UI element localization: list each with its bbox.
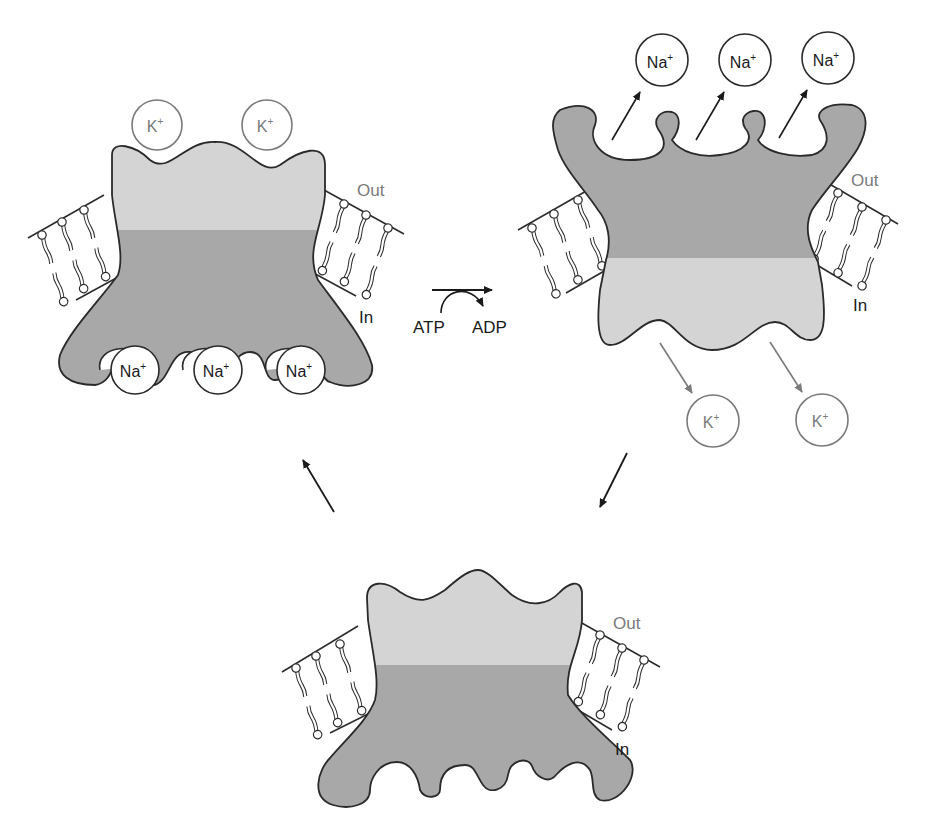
state-1-pump-group: Na+ Na+ Na+ K+ K+ Out In (28, 100, 404, 400)
out-label-state-2: Out (851, 171, 879, 190)
atp-hydrolysis-arrow (441, 291, 483, 313)
membrane-left-state-2 (518, 190, 607, 299)
adp-label: ADP (472, 318, 507, 337)
membrane-right-state-2 (809, 182, 898, 291)
state-3-pump-group: Out In (282, 560, 660, 825)
k-ion-released-1: K+ (660, 343, 739, 447)
sodium-potassium-pump-diagram: Na+ Na+ Na+ K+ K+ Out In ATP ADP (0, 0, 926, 836)
k-ion-approaching-2: K+ (242, 100, 292, 150)
in-label-state-3: In (615, 740, 629, 759)
out-label-state-3: Out (613, 614, 641, 633)
transition-arrow-3-to-1 (303, 460, 334, 512)
atp-adp-transition: ATP ADP (413, 290, 507, 337)
k-ion-released-2: K+ (770, 342, 848, 446)
in-label-state-2: In (853, 296, 867, 315)
out-label-state-1: Out (357, 181, 385, 200)
state-2-pump-group: Na+ Na+ Na+ K+ K+ Out In (518, 32, 898, 447)
in-label-state-1: In (359, 308, 373, 327)
transition-arrow-2-to-3 (600, 453, 627, 507)
atp-label: ATP (413, 318, 445, 337)
na-ion-bound-2: Na+ (183, 346, 242, 394)
k-ion-approaching-1: K+ (132, 100, 182, 150)
